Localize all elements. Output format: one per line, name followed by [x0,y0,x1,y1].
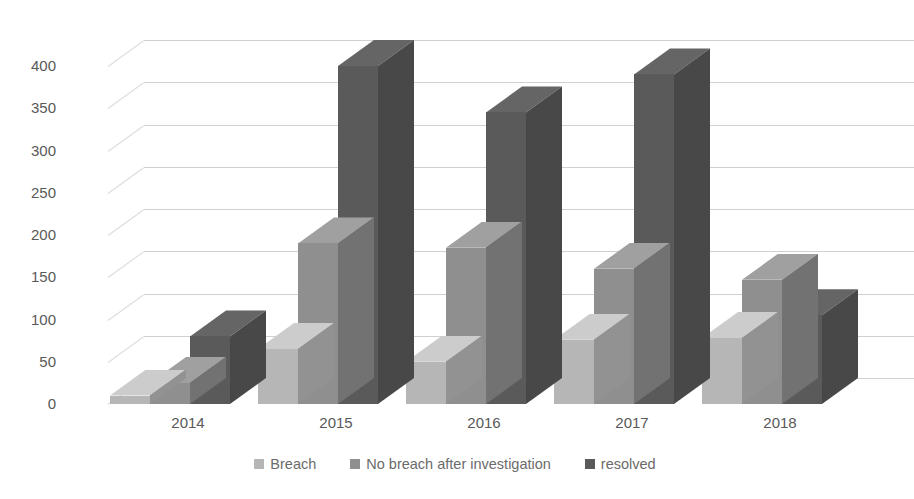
y-axis-tick-label: 50 [8,354,56,369]
gridline-ramp [108,294,145,321]
y-axis-tick-label: 300 [8,143,56,158]
bar-front-face [110,396,150,404]
legend-label: No breach after investigation [366,456,551,472]
x-axis-tick-label: 2015 [276,414,396,431]
legend-swatch-icon [350,459,360,469]
y-axis-tick-label: 100 [8,312,56,327]
x-axis-tick-label: 2018 [720,414,840,431]
y-axis-tick-label: 200 [8,227,56,242]
y-axis-tick-label: 150 [8,269,56,284]
gridline-ramp [108,251,145,278]
gridline-ramp [108,125,145,152]
bar-side-face [378,40,414,404]
gridline-ramp [108,209,145,236]
y-axis: 050100150200250300350400 [0,0,56,430]
x-axis-tick-label: 2014 [128,414,248,431]
bar-2015-breach [258,323,334,404]
y-axis-tick-label: 350 [8,100,56,115]
gridline [144,82,914,83]
gridline-ramp [108,336,145,363]
bar-2017-breach [554,314,630,404]
gridline [144,40,914,41]
bar-2014-breach [110,370,186,404]
bar-side-face [526,86,562,404]
gridline-ramp [108,82,145,109]
bar-2016-breach [406,336,482,404]
bar-side-face [674,48,710,404]
legend-label: Breach [270,456,316,472]
bar-side-face [634,243,670,404]
bar-side-face [486,222,522,404]
bar-2018-breach [702,312,778,404]
legend-swatch-icon [585,459,595,469]
y-axis-tick-label: 0 [8,396,56,411]
bar-side-face [782,254,818,404]
legend-item[interactable]: Breach [254,456,316,472]
x-axis-tick-label: 2016 [424,414,544,431]
chart-legend: BreachNo breach after investigationresol… [0,456,910,472]
y-axis-tick-label: 250 [8,185,56,200]
legend-item[interactable]: resolved [585,456,656,472]
gridline-ramp [108,40,145,67]
y-axis-tick-label: 400 [8,58,56,73]
legend-swatch-icon [254,459,264,469]
plot-area [0,0,910,430]
legend-item[interactable]: No breach after investigation [350,456,551,472]
bar-side-face [338,217,374,404]
gridline-ramp [108,167,145,194]
x-axis-tick-label: 2017 [572,414,692,431]
legend-label: resolved [601,456,656,472]
